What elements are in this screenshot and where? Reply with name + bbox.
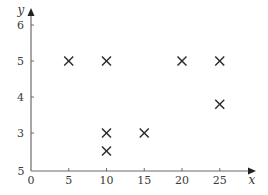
y-tick-label: 3 (17, 127, 24, 140)
x-axis-label: x (249, 173, 256, 187)
x-tick-label: 0 (28, 174, 35, 187)
axis-ticks: 05101520253456 (17, 19, 227, 187)
y-tick-label: 6 (17, 19, 24, 32)
y-axis-arrow-icon (28, 8, 35, 16)
x-marker-icon (140, 129, 149, 138)
x-marker-icon (102, 57, 111, 66)
x-tick-label: 20 (175, 174, 189, 187)
x-tick-label: 10 (100, 174, 114, 187)
x-marker-icon (215, 57, 224, 66)
x-tick-label: 25 (213, 174, 227, 187)
x-tick-label: 5 (65, 174, 72, 187)
x-tick-label: 15 (137, 174, 151, 187)
y-tick-label: 4 (17, 91, 24, 104)
x-marker-icon (102, 147, 111, 156)
x-marker-icon (215, 100, 224, 109)
scatter-chart: 05101520253456 x y 5 (0, 0, 268, 195)
data-markers (64, 57, 224, 156)
x-marker-icon (178, 57, 187, 66)
axes (28, 8, 257, 175)
x-marker-icon (102, 129, 111, 138)
y-axis-label: y (17, 3, 25, 17)
y-origin-label: 5 (18, 165, 25, 178)
x-marker-icon (64, 57, 73, 66)
y-tick-label: 5 (17, 55, 24, 68)
